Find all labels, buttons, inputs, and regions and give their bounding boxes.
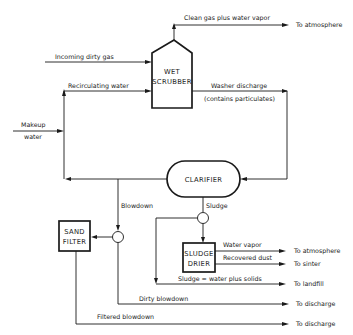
arrow-left-icon (91, 235, 97, 239)
arrow-right-icon (145, 89, 152, 93)
sand-filter-label-line1: SAND (64, 228, 85, 236)
wet-scrubber-node: WET SCRUBBER (152, 40, 192, 108)
clean-gas-label: Clean gas plus water vapor (184, 14, 270, 22)
arrow-down-icon (154, 278, 158, 284)
sludge-drier-label-line1: SLUDGE (184, 250, 213, 258)
clarifier-label: CLARIFIER (185, 176, 223, 184)
incoming-gas-flow: Incoming dirty gas (45, 53, 152, 64)
scrubber-label-line1: WET (164, 68, 181, 76)
to-discharge-filtered-label: To discharge (295, 320, 335, 328)
arrow-right-icon (282, 322, 289, 326)
arrow-up-icon (172, 23, 176, 29)
filtered-blowdown-label: Filtered blowdown (97, 313, 154, 320)
arrow-left-icon (240, 177, 247, 181)
blowdown-flow: Blowdown (113, 179, 154, 243)
to-landfill-label: To landfill (293, 280, 324, 287)
arrow-right-icon (57, 129, 64, 133)
incoming-gas-label: Incoming dirty gas (55, 53, 114, 61)
blowdown-label: Blowdown (121, 202, 153, 209)
process-flow-diagram: WET SCRUBBER Clean gas plus water vapor … (0, 0, 353, 335)
arrow-right-icon (282, 23, 289, 27)
sludge-landfill-flow: Sludge = water plus solids To landfill (156, 275, 324, 287)
sludge-label: Sludge (206, 202, 228, 210)
washer-discharge-label-line1: Washer discharge (211, 82, 267, 90)
arrow-right-icon (279, 262, 286, 266)
arrow-down-icon (201, 237, 205, 243)
arrow-right-icon (279, 282, 286, 286)
recirculating-water-label: Recirculating water (68, 82, 129, 90)
to-discharge-dirty-label: To discharge (295, 300, 335, 308)
to-atmosphere-top-label: To atmosphere (295, 21, 343, 29)
to-sand-filter-flow (91, 235, 113, 239)
arrow-down-icon (116, 225, 120, 231)
recovered-dust-flow: Recovered dust To sinter (215, 254, 321, 267)
sludge-drier-node: SLUDGE DRIER (183, 243, 215, 272)
arrow-right-icon (279, 249, 286, 253)
clarifier-return-flow (65, 177, 167, 181)
to-atmosphere-drier-label: To atmosphere (293, 247, 341, 255)
scrubber-label-line2: SCRUBBER (152, 78, 192, 86)
arrow-left-icon (65, 177, 71, 181)
water-vapor-flow: Water vapor To atmosphere (215, 241, 341, 255)
recirculating-water-flow: Recirculating water (62, 82, 152, 179)
dirty-blowdown-label: Dirty blowdown (139, 295, 188, 303)
arrow-right-icon (145, 60, 152, 64)
arrow-up-icon (62, 89, 66, 96)
sand-filter-node: SAND FILTER (59, 221, 90, 251)
makeup-label-line2: water (24, 133, 42, 140)
makeup-label-line1: Makeup (21, 121, 46, 129)
sand-filter-label-line2: FILTER (63, 238, 87, 246)
sludge-drier-label-line2: DRIER (188, 260, 210, 268)
blowdown-junction (113, 232, 124, 243)
sludge-junction (198, 213, 209, 224)
sludge-solids-label: Sludge = water plus solids (178, 275, 262, 283)
water-vapor-label: Water vapor (223, 241, 262, 249)
makeup-water-flow: Makeup water (13, 121, 64, 140)
clarifier-node: CLARIFIER (167, 161, 240, 197)
recovered-dust-label: Recovered dust (223, 254, 272, 261)
arrow-right-icon (282, 302, 289, 306)
washer-discharge-label-line2: (contains particulates) (204, 95, 275, 103)
clean-gas-flow: Clean gas plus water vapor To atmosphere (172, 14, 343, 40)
to-sinter-label: To sinter (293, 260, 321, 267)
